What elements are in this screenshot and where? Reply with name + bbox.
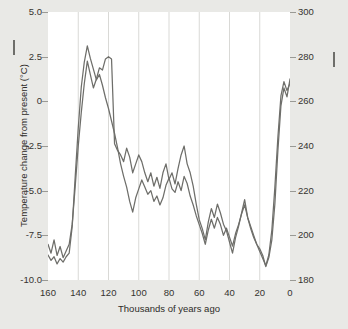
right-tick-mark-2 [290, 101, 296, 102]
left-axis-title: Temperature change from present (°C) [18, 61, 29, 231]
left-tick-mark-4 [42, 191, 48, 192]
left-tick-mark-0 [42, 12, 48, 13]
right-tick-mark-5 [290, 235, 296, 236]
right-tick-mark-4 [290, 191, 296, 192]
left-tick--10-0: -10.0 [8, 275, 42, 285]
plot-area [48, 12, 290, 280]
bottom-tick-40: 40 [215, 288, 245, 298]
left-tick-mark-6 [42, 280, 48, 281]
bottom-tick-160: 160 [33, 288, 63, 298]
right-tick-280: 280 [298, 52, 332, 62]
right-tick-mark-6 [290, 280, 296, 281]
left-tick--7-5: -7.5 [8, 230, 42, 240]
temperature-legend-line-icon [13, 40, 15, 55]
right-tick-260: 260 [298, 96, 332, 106]
left-tick-mark-5 [42, 235, 48, 236]
bottom-tick-60: 60 [184, 288, 214, 298]
bottom-tick-140: 140 [63, 288, 93, 298]
left-tick-mark-2 [42, 101, 48, 102]
right-tick-300: 300 [298, 7, 332, 17]
bottom-tick-80: 80 [154, 288, 184, 298]
climate-chart-figure: 5.02.50-2.5-5.0-7.5-10.0 300280260240220… [0, 0, 348, 329]
right-tick-mark-0 [290, 12, 296, 13]
series-lines [48, 12, 290, 280]
left-tick-mark-3 [42, 146, 48, 147]
right-tick-200: 200 [298, 230, 332, 240]
right-tick-240: 240 [298, 141, 332, 151]
right-tick-mark-3 [290, 146, 296, 147]
right-tick-180: 180 [298, 275, 332, 285]
right-tick-220: 220 [298, 186, 332, 196]
right-tick-mark-1 [290, 57, 296, 58]
co2-legend-line-icon [333, 52, 335, 67]
bottom-tick-120: 120 [94, 288, 124, 298]
bottom-tick-20: 20 [245, 288, 275, 298]
left-tick-mark-1 [42, 57, 48, 58]
left-tick-5-0: 5.0 [8, 7, 42, 17]
bottom-tick-0: 0 [275, 288, 305, 298]
bottom-axis-title: Thousands of years ago [48, 303, 290, 314]
bottom-tick-100: 100 [124, 288, 154, 298]
